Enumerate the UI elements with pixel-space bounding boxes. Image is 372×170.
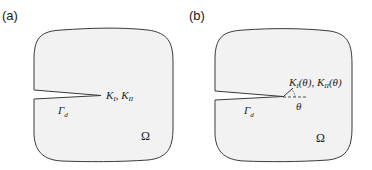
theta-label: θ (296, 100, 302, 112)
panel-a-domain-boundary (34, 28, 173, 162)
crack-diagram: (a) KI, KII Γd Ω (b) KI(θ), KII(θ) θ Γd … (0, 0, 372, 170)
panel-b-domain-boundary (215, 29, 352, 162)
panel-b-sif-label: KI(θ), KII(θ) (288, 76, 342, 90)
panel-b-omega-label: Ω (316, 131, 325, 145)
panel-a-label: (a) (2, 8, 18, 23)
panel-a-omega-label: Ω (141, 129, 150, 143)
panel-b: (b) KI(θ), KII(θ) θ Γd Ω (189, 8, 352, 162)
panel-b-label: (b) (189, 8, 205, 23)
panel-a: (a) KI, KII Γd Ω (2, 8, 173, 162)
